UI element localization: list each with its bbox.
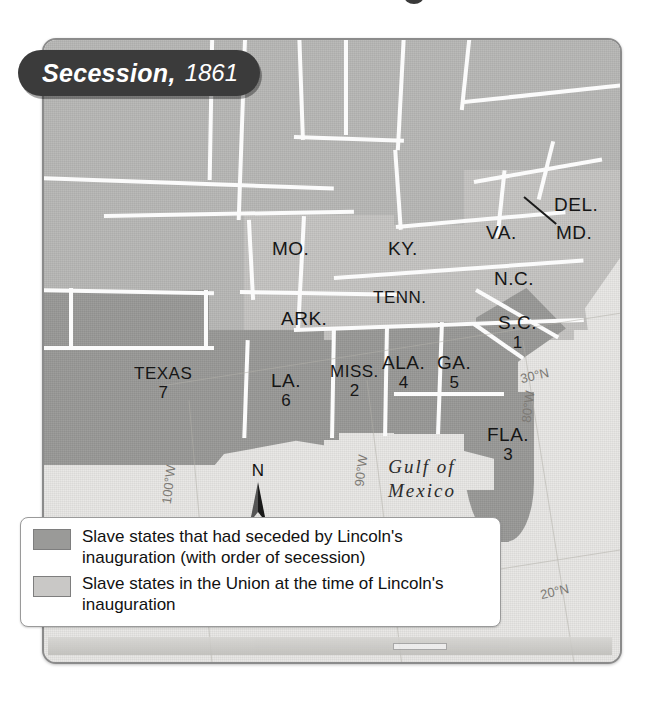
state-label-fla: FLA.3 (487, 424, 529, 464)
secession-order-number: 5 (437, 373, 471, 392)
map-page: 30°N20°N80°W90°W100°W Gulf of Mexico N M… (0, 0, 649, 719)
legend-swatch-seceded (33, 529, 71, 550)
legend-row-2: Slave states in the Union at the time of… (33, 574, 488, 615)
compass-north-label: N (243, 462, 273, 479)
state-name: LA. (271, 370, 301, 391)
border-line (69, 288, 73, 350)
legend-label: Slave states that had seceded by Lincoln… (82, 527, 488, 568)
secession-order-number: 3 (487, 445, 529, 464)
state-name: N.C. (494, 268, 534, 289)
map-title-banner: Secession, 1861 (18, 50, 260, 96)
state-name: MO. (272, 238, 309, 259)
secession-order-number: 4 (382, 373, 425, 392)
compass-rose: N (243, 462, 273, 524)
state-name: GA. (437, 352, 471, 373)
clipped-title-glyph (404, 0, 424, 4)
gulf-label-line2: Mexico (388, 479, 456, 503)
state-name: ARK. (281, 308, 327, 329)
state-name: TENN. (373, 288, 427, 307)
state-name: MISS. (330, 362, 379, 381)
state-name: S.C. (498, 312, 537, 333)
legend-row-1: Slave states that had seceded by Lincoln… (33, 527, 488, 568)
state-name: MD. (556, 222, 592, 243)
state-label-ky: KY. (388, 238, 418, 259)
map-legend: Slave states that had seceded by Lincoln… (20, 517, 501, 627)
gulf-label-line1: Gulf of (388, 455, 456, 479)
state-label-miss: MISS.2 (330, 362, 379, 400)
state-name: VA. (486, 222, 517, 243)
border-line (344, 38, 348, 135)
legend-label: Slave states in the Union at the time of… (82, 574, 488, 615)
border-line (42, 346, 214, 350)
state-name: DEL. (554, 194, 598, 215)
map-title-text: Secession, (42, 59, 176, 88)
state-name: FLA. (487, 424, 529, 445)
legend-swatch-union (33, 576, 71, 597)
border-line (394, 392, 504, 396)
state-label-va: VA. (486, 222, 517, 243)
state-name: TEXAS (134, 364, 192, 383)
secession-order-number: 7 (134, 383, 192, 402)
land-texas-upper (42, 290, 209, 345)
secession-order-number: 1 (498, 333, 537, 352)
map-title-year: 1861 (185, 59, 238, 87)
state-label-sc: S.C.1 (498, 312, 537, 352)
state-label-ala: ALA.4 (382, 352, 425, 392)
state-label-la: LA.6 (271, 370, 301, 410)
state-label-tenn: TENN. (373, 288, 427, 307)
page-shelf-strip (48, 637, 612, 655)
secession-order-number: 2 (330, 381, 379, 400)
secession-order-number: 6 (271, 391, 301, 410)
state-name: ALA. (382, 352, 425, 373)
gulf-of-mexico-label: Gulf of Mexico (388, 455, 456, 503)
state-label-nc: N.C. (494, 268, 534, 289)
state-label-ga: GA.5 (437, 352, 471, 392)
state-label-md: MD. (556, 222, 592, 243)
state-label-ark: ARK. (281, 308, 327, 329)
border-line (204, 290, 208, 348)
state-name: KY. (388, 238, 418, 259)
scale-tick (393, 643, 447, 650)
state-label-del: DEL. (554, 194, 598, 215)
state-label-texas: TEXAS7 (134, 364, 192, 402)
state-label-mo: MO. (272, 238, 309, 259)
